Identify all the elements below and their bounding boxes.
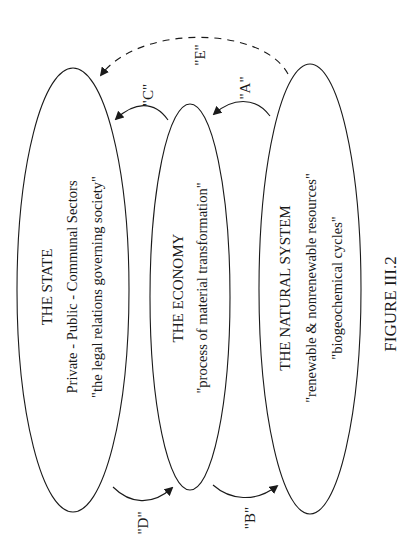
state-node-text: THE STATE Private - Public - Communal Se… — [39, 176, 105, 398]
figure-caption: FIGURE III.2 — [381, 256, 400, 351]
economy-title: THE ECONOMY — [170, 233, 186, 342]
edge-b-label: "B" — [242, 507, 258, 529]
natural-cycles-line: "biogeochemical cycles" — [329, 216, 345, 360]
edge-c-label: "C" — [140, 84, 156, 106]
edge-e-label: "E" — [192, 44, 208, 65]
edge-d-arrow — [113, 487, 172, 501]
state-title: THE STATE — [39, 249, 55, 326]
economy-description-line: "process of material transformation" — [194, 182, 210, 393]
natural-system-node-text: THE NATURAL SYSTEM "renewable & nonrenew… — [277, 173, 345, 403]
edge-a-arrow — [214, 102, 270, 117]
natural-system-title: THE NATURAL SYSTEM — [277, 205, 293, 370]
edge-a-label: "A" — [237, 76, 253, 99]
diagram-canvas: THE STATE Private - Public - Communal Se… — [0, 0, 415, 560]
edge-d-label: "D" — [135, 511, 151, 534]
edge-c-arrow — [116, 106, 168, 120]
state-sectors-line: Private - Public - Communal Sectors — [64, 180, 80, 393]
economy-node-text: THE ECONOMY "process of material transfo… — [170, 182, 210, 393]
state-description-line: "the legal relations governing society" — [89, 176, 105, 398]
edge-b-arrow — [213, 485, 277, 498]
natural-resources-line: "renewable & nonrenewable resources" — [303, 173, 319, 403]
economy-ellipse — [150, 104, 230, 490]
